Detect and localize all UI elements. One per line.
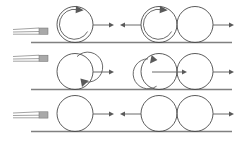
spin-arrow-left-middle bbox=[77, 52, 103, 87]
velocity-arrow-left-top bbox=[93, 23, 114, 28]
velocity-arrow-inner-middle bbox=[152, 70, 187, 75]
billiards-spin-diagram bbox=[0, 0, 240, 141]
row-middle bbox=[13, 52, 234, 89]
ball-left-bottom bbox=[57, 96, 93, 132]
ball-right-a-top bbox=[141, 7, 177, 43]
cue-stick-middle bbox=[13, 55, 48, 61]
ball-left-top bbox=[57, 7, 93, 43]
cue-tip-middle bbox=[39, 55, 48, 61]
velocity-arrow-right-top bbox=[213, 23, 234, 28]
cue-tip-top bbox=[39, 28, 48, 34]
ball-right-b-top bbox=[177, 7, 213, 43]
row-top bbox=[13, 6, 234, 43]
velocity-arrow-right-bottom bbox=[213, 112, 234, 117]
velocity-arrow-right-middle bbox=[213, 70, 234, 75]
velocity-arrow-left-bottom bbox=[93, 112, 114, 117]
row-bottom bbox=[13, 96, 234, 132]
ball-left-middle bbox=[57, 54, 93, 90]
velocity-arrow-mid-top bbox=[120, 23, 141, 28]
diagram-canvas bbox=[0, 0, 240, 141]
ball-right-a-bottom bbox=[141, 96, 177, 132]
velocity-arrow-left-middle bbox=[93, 70, 114, 75]
cue-stick-bottom bbox=[13, 112, 48, 118]
cue-tip-bottom bbox=[39, 112, 48, 118]
cue-stick-top bbox=[13, 28, 48, 34]
ball-right-b-bottom bbox=[177, 96, 213, 132]
velocity-arrow-mid-bottom bbox=[120, 112, 141, 117]
